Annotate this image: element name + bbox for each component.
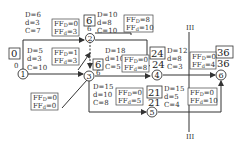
svg-text:FFD=8: FFD=8 — [126, 16, 150, 24]
node-5-label: 5 — [150, 108, 155, 117]
svg-text:FFD=0: FFD=0 — [124, 56, 148, 64]
node-4-es: 24 — [151, 48, 164, 59]
svg-text:C=4: C=4 — [164, 101, 180, 109]
svg-text:D=15: D=15 — [164, 85, 184, 93]
svg-text:d=10: d=10 — [93, 91, 112, 99]
svg-text:d=8: d=8 — [167, 55, 182, 63]
node-1-label: 1 — [21, 70, 26, 79]
svg-text:C=10: C=10 — [27, 64, 47, 72]
node-3-label: 3 — [87, 72, 92, 81]
svg-text:D=18: D=18 — [105, 47, 125, 55]
svg-text:FFd=10: FFd=10 — [190, 97, 218, 105]
svg-text:C=5: C=5 — [105, 63, 121, 71]
node-2-label: 2 — [88, 34, 93, 43]
svg-text:FFd=3: FFd=3 — [54, 28, 77, 36]
edge-diagonal-up — [78, 53, 90, 70]
node-6-es: 36 — [217, 47, 230, 58]
cut-label-top: III — [186, 24, 195, 32]
activity-1-2: D=6 d=3 C=7 FFD=0 FFd=3 — [25, 11, 79, 36]
svg-text:FFD=0: FFD=0 — [190, 89, 214, 97]
activity-3-4: D=18 d=10 C=5 FFD=0 FFd=8 — [105, 47, 149, 72]
svg-text:FFD=0: FFD=0 — [192, 53, 216, 61]
svg-text:FFd=10: FFd=10 — [126, 24, 154, 32]
svg-text:FFD=0: FFD=0 — [118, 89, 142, 97]
svg-text:d=3: d=3 — [27, 55, 42, 63]
svg-text:FFD=0: FFD=0 — [54, 20, 78, 28]
svg-text:C=7: C=7 — [25, 27, 41, 35]
svg-text:FFd=0: FFd=0 — [33, 102, 56, 110]
svg-text:FFD=1: FFD=1 — [54, 49, 78, 57]
node-4-label: 4 — [155, 71, 160, 80]
svg-text:d=5: d=5 — [164, 93, 179, 101]
svg-text:D=5: D=5 — [27, 47, 43, 55]
cut-label-bottom: III — [186, 133, 195, 141]
activity-4-6: D=12 d=8 C=3 FFD=0 FFd=4 — [167, 47, 216, 71]
activity-dummy-ff: FFD=0 FFd=0 — [31, 93, 58, 110]
svg-text:D=15: D=15 — [93, 83, 113, 91]
svg-text:C=10: C=10 — [97, 27, 117, 35]
activity-5-6: D=15 d=5 C=4 FFD=0 FFd=10 — [164, 85, 218, 109]
svg-text:FFd=4: FFd=4 — [192, 61, 216, 69]
svg-text:D=12: D=12 — [167, 47, 187, 55]
node-6-lf: 36 — [217, 58, 230, 69]
svg-text:FFd=5: FFd=5 — [118, 97, 141, 105]
svg-text:FFd=3: FFd=3 — [54, 57, 77, 65]
activity-1-3: D=5 d=3 C=10 FFD=1 FFd=3 — [27, 47, 79, 72]
svg-text:D=10: D=10 — [97, 11, 117, 19]
activity-3-5: D=15 d=10 C=8 FFD=0 FFd=5 — [93, 83, 143, 107]
node-2-lf: 6 — [87, 25, 92, 33]
svg-text:FFD=0: FFD=0 — [33, 94, 57, 102]
svg-text:d=3: d=3 — [25, 19, 40, 27]
svg-text:C=3: C=3 — [167, 63, 183, 71]
node-6-label: 6 — [219, 71, 224, 80]
svg-text:d=8: d=8 — [97, 19, 112, 27]
node-3-lf: 6 — [96, 69, 101, 77]
svg-text:D=6: D=6 — [25, 11, 41, 19]
node-1-es: 0 — [11, 48, 17, 59]
activity-2-4: D=10 d=8 C=10 FFD=8 FFd=10 — [97, 11, 154, 35]
svg-text:FFd=8: FFd=8 — [124, 64, 147, 72]
svg-text:d=10: d=10 — [105, 55, 124, 63]
svg-text:C=8: C=8 — [93, 99, 109, 107]
node-5-lf: 21 — [148, 97, 161, 108]
node-4-lf: 24 — [152, 59, 165, 70]
activity-network-diagram: III III 0 0 1 6 6 2 6 6 3 24 24 4 21 21 … — [0, 0, 237, 142]
edge-diagonal — [62, 80, 87, 108]
node-1-lf: 0 — [14, 62, 18, 70]
